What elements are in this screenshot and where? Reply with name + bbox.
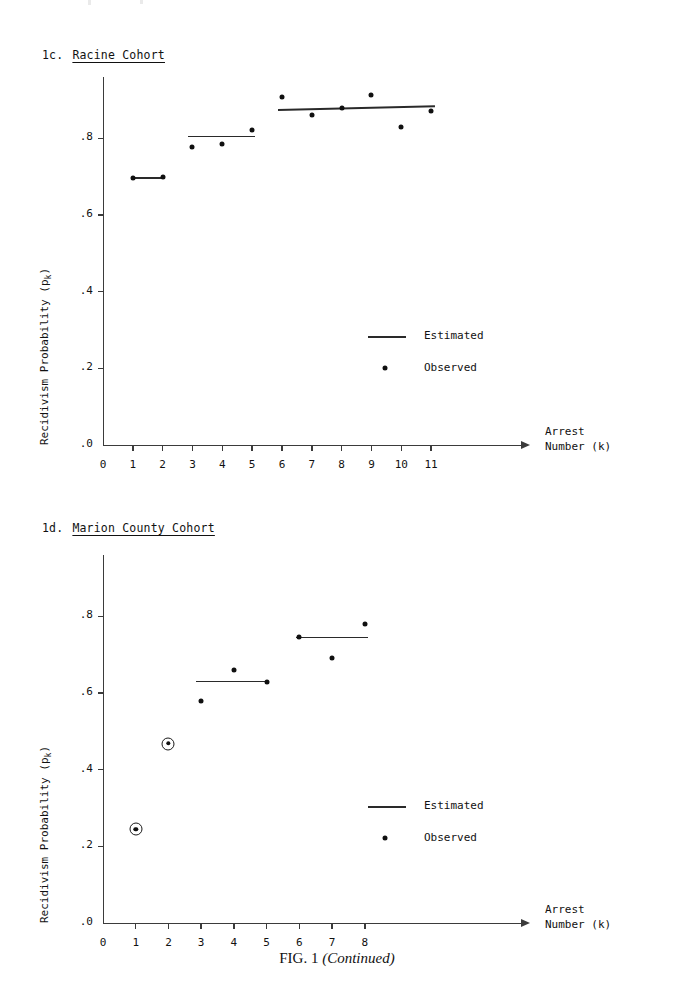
observed-point — [399, 125, 404, 130]
x-axis-tick-label: 7 — [297, 458, 327, 471]
x-axis-tick — [341, 445, 342, 451]
observed-point — [160, 175, 165, 180]
y-axis-tick — [98, 214, 104, 215]
y-axis-tick-label: .0 — [55, 915, 93, 928]
legend-row: Estimated — [368, 798, 538, 814]
observed-point — [330, 655, 335, 660]
y-axis-tick — [98, 291, 104, 292]
x-axis-title: ArrestNumber (k) — [545, 902, 611, 932]
observed-point — [130, 175, 135, 180]
x-axis-title-line2: Number (k) — [545, 439, 611, 454]
chart-1d: .0.2.4.6.8012345678Recidivism Probabilit… — [0, 480, 674, 950]
y-axis-title-text: Recidivism Probability (p — [38, 279, 51, 445]
legend-row: Observed — [368, 830, 538, 846]
estimated-line-segment — [296, 637, 368, 639]
x-axis-tick-label: 10 — [386, 458, 416, 471]
legend-label: Estimated — [424, 798, 484, 814]
x-axis-tick-label: 6 — [267, 458, 297, 471]
observed-point-ringed — [162, 737, 175, 750]
legend-line-swatch — [368, 336, 406, 338]
x-axis-tick-label: 5 — [252, 936, 282, 949]
y-axis-tick — [98, 368, 104, 369]
y-axis-line — [103, 77, 104, 446]
figure-page: 1c.Racine Cohort .0.2.4.6.80123456789101… — [0, 0, 674, 992]
observed-point — [362, 622, 367, 627]
x-axis-tick-label: 3 — [186, 936, 216, 949]
x-axis-tick — [266, 923, 267, 929]
y-axis-line — [103, 555, 104, 924]
y-axis-tick-label: .2 — [55, 838, 93, 851]
y-axis-tick-label: .4 — [55, 284, 93, 297]
x-axis-title-line2: Number (k) — [545, 917, 611, 932]
observed-point — [250, 127, 255, 132]
x-axis-tick-label: 9 — [356, 458, 386, 471]
x-axis-tick-label: 0 — [88, 936, 118, 949]
y-axis-tick — [98, 616, 104, 617]
y-axis-title-close: ) — [38, 746, 51, 753]
legend-label: Estimated — [424, 328, 484, 344]
x-axis-tick — [401, 445, 402, 451]
y-axis-title-text: Recidivism Probability (p — [38, 757, 51, 923]
y-axis-tick — [98, 846, 104, 847]
chart-1c: .0.2.4.6.801234567891011Recidivism Proba… — [0, 0, 674, 480]
x-axis-title-line1: Arrest — [545, 424, 611, 439]
x-axis-tick — [162, 445, 163, 451]
x-axis-tick-label: 2 — [148, 458, 178, 471]
x-axis-tick — [364, 923, 365, 929]
x-axis-tick-label: 1 — [118, 458, 148, 471]
x-axis-tick-label: 4 — [207, 458, 237, 471]
x-axis-tick-label: 8 — [327, 458, 357, 471]
x-axis-tick — [192, 445, 193, 451]
x-axis-tick-label: 7 — [317, 936, 347, 949]
y-axis-tick — [98, 138, 104, 139]
x-axis-arrow — [521, 441, 530, 449]
observed-point — [339, 106, 344, 111]
y-axis-tick — [98, 692, 104, 693]
x-axis-title-line1: Arrest — [545, 902, 611, 917]
x-axis-tick — [371, 445, 372, 451]
y-axis-tick-label: .6 — [55, 685, 93, 698]
x-axis-tick-label: 1 — [121, 936, 151, 949]
observed-point — [429, 109, 434, 114]
x-axis-arrow — [521, 919, 530, 927]
observed-point — [190, 145, 195, 150]
figure-continued: (Continued) — [322, 950, 395, 966]
y-axis-tick-label: .0 — [55, 437, 93, 450]
estimated-line-segment — [188, 136, 255, 138]
estimated-line-segment — [277, 105, 434, 110]
legend-label: Observed — [424, 360, 477, 376]
observed-point — [264, 679, 269, 684]
x-axis-line — [103, 923, 521, 924]
figure-label: FIG. 1 — [279, 950, 318, 966]
legend-line-swatch — [368, 806, 406, 808]
observed-point — [369, 93, 374, 98]
observed-point — [297, 635, 302, 640]
y-axis-tick — [98, 769, 104, 770]
y-axis-title: Recidivism Probability (pk) — [37, 268, 56, 445]
x-axis-tick-label: 5 — [237, 458, 267, 471]
x-axis-tick — [331, 923, 332, 929]
x-axis-tick-label: 6 — [284, 936, 314, 949]
x-axis-tick — [222, 445, 223, 451]
y-axis-title-close: ) — [38, 268, 51, 275]
observed-point-ringed — [129, 823, 142, 836]
figure-caption: FIG. 1 (Continued) — [0, 950, 674, 967]
x-axis-tick — [200, 923, 201, 929]
x-axis-title: ArrestNumber (k) — [545, 424, 611, 454]
x-axis-tick-label: 3 — [177, 458, 207, 471]
observed-point — [231, 668, 236, 673]
legend-label: Observed — [424, 830, 477, 846]
observed-point — [199, 698, 204, 703]
x-axis-tick-label: 11 — [416, 458, 446, 471]
y-axis-title-subscript: k — [44, 275, 53, 280]
x-axis-tick — [132, 445, 133, 451]
x-axis-tick — [233, 923, 234, 929]
observed-point — [220, 142, 225, 147]
legend-row: Observed — [368, 360, 538, 376]
x-axis-tick-label: 8 — [350, 936, 380, 949]
x-axis-tick-label: 2 — [153, 936, 183, 949]
x-axis-tick — [168, 923, 169, 929]
x-axis-tick — [299, 923, 300, 929]
legend-dot-swatch — [383, 836, 388, 841]
y-axis-tick-label: .8 — [55, 608, 93, 621]
